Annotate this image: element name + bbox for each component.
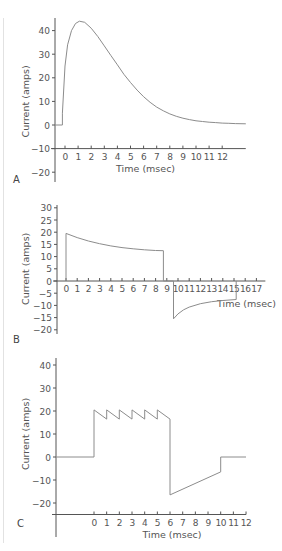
x-tick-label: 10: [191, 152, 202, 162]
y-tick-label: −20: [31, 168, 50, 178]
x-tick-label: 6: [131, 284, 137, 294]
x-tick-label: 2: [86, 284, 91, 294]
series-line-a: [55, 21, 246, 125]
x-tick-label: 2: [117, 518, 122, 528]
x-tick-label: 3: [129, 518, 134, 528]
x-tick-label: 11: [204, 152, 214, 162]
y-axis-label-c: Current (amps): [20, 398, 31, 470]
y-tick-label: 30: [41, 203, 53, 213]
series-line-b: [66, 233, 236, 318]
y-tick-label: 30: [40, 384, 52, 394]
y-tick-label: 30: [39, 50, 51, 60]
x-tick-label: 11: [184, 284, 194, 294]
x-tick-label: 9: [180, 152, 186, 162]
x-tick-label: 5: [128, 152, 133, 162]
x-tick-label: 4: [108, 284, 114, 294]
x-tick-label: 1: [75, 152, 80, 162]
x-tick-label: 1: [75, 284, 80, 294]
y-tick-label: −10: [32, 476, 51, 486]
y-tick-label: −10: [31, 144, 50, 154]
y-tick-label: 40: [40, 361, 52, 371]
x-tick-label: 4: [115, 152, 121, 162]
y-tick-label: −5: [39, 289, 52, 299]
x-tick-label: 3: [102, 152, 107, 162]
x-tick-label: 11: [228, 518, 238, 528]
x-tick-label: 1: [104, 518, 109, 528]
x-tick-label: 7: [142, 284, 147, 294]
x-tick-label: 4: [142, 518, 148, 528]
x-tick-label: 6: [141, 152, 147, 162]
x-tick-label: 15: [229, 284, 239, 294]
y-tick-label: 0: [46, 277, 52, 287]
y-tick-label: −15: [33, 313, 52, 323]
x-axis-label-c: Time (msec): [142, 529, 202, 540]
y-tick-label: −20: [33, 325, 52, 335]
x-tick-label: 10: [173, 284, 184, 294]
x-tick-label: 8: [167, 152, 173, 162]
x-tick-label: 6: [167, 518, 173, 528]
x-tick-label: 12: [217, 152, 227, 162]
x-tick-label: 0: [91, 518, 97, 528]
series-line-c: [56, 410, 246, 495]
y-tick-label: 5: [46, 264, 52, 274]
x-tick-label: 2: [89, 152, 94, 162]
x-tick-label: 17: [251, 284, 261, 294]
x-tick-label: 16: [240, 284, 251, 294]
y-tick-label: 15: [41, 240, 52, 250]
x-tick-label: 3: [97, 284, 102, 294]
panel-label-b: B: [13, 334, 20, 345]
x-tick-label: 8: [193, 518, 199, 528]
x-tick-label: 13: [206, 284, 216, 294]
x-tick-label: 14: [218, 284, 229, 294]
y-tick-label: 10: [40, 430, 52, 440]
panel-label-a: A: [13, 174, 20, 185]
y-tick-label: 10: [39, 97, 51, 107]
x-axis-label-a: Time (msec): [115, 163, 175, 174]
y-tick-label: 0: [44, 121, 50, 131]
y-tick-label: 25: [41, 216, 52, 226]
panel-label-c: C: [17, 518, 24, 529]
x-tick-label: 7: [154, 152, 159, 162]
y-tick-label: −20: [32, 499, 51, 509]
y-axis-label-a: Current (amps): [20, 65, 31, 137]
x-tick-label: 0: [63, 284, 69, 294]
x-tick-label: 5: [119, 284, 124, 294]
x-tick-label: 5: [155, 518, 160, 528]
y-tick-label: 10: [41, 252, 53, 262]
x-axis-label-b: Time (msec): [216, 298, 276, 309]
x-tick-label: 10: [215, 518, 226, 528]
y-tick-label: 20: [41, 228, 53, 238]
y-tick-label: −10: [33, 301, 52, 311]
x-tick-label: 8: [153, 284, 159, 294]
x-tick-label: 9: [205, 518, 211, 528]
x-tick-label: 12: [241, 518, 251, 528]
y-tick-label: 20: [40, 407, 52, 417]
y-tick-label: 40: [39, 26, 51, 36]
figure-charts: 403020100−10−200123456789101112Time (mse…: [0, 0, 282, 551]
y-axis-label-b: Current (amps): [20, 233, 31, 305]
x-tick-label: 0: [62, 152, 68, 162]
y-tick-label: 0: [45, 453, 51, 463]
y-tick-label: 20: [39, 73, 51, 83]
x-tick-label: 7: [180, 518, 185, 528]
x-tick-label: 12: [195, 284, 205, 294]
x-tick-label: 9: [164, 284, 170, 294]
